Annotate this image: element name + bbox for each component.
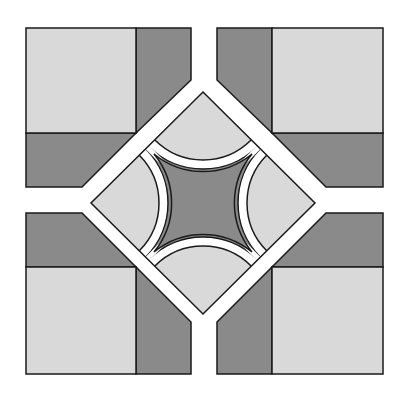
light-square	[26, 267, 136, 374]
light-square	[272, 28, 383, 133]
light-square	[26, 28, 136, 133]
quilt-block-svg	[0, 0, 405, 399]
quilt-block-diagram	[0, 0, 405, 399]
light-square	[272, 267, 383, 374]
